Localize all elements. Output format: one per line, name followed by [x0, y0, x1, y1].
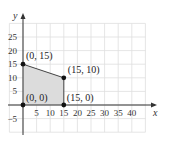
x-tick-label: 25 [87, 108, 97, 118]
feasible-region-chart: x y 510152025303540 252015105−5 (0, 15)(… [0, 0, 169, 146]
y-tick-labels: 252015105−5 [7, 32, 17, 124]
y-tick-label: 15 [8, 59, 18, 69]
x-tick-label: 35 [114, 108, 124, 118]
x-tick-labels: 510152025303540 [34, 108, 136, 118]
x-tick-label: 20 [73, 108, 83, 118]
y-tick-label: 10 [8, 73, 18, 83]
vertex-point [21, 62, 26, 67]
vertex-point [61, 103, 66, 108]
vertex-label: (15, 0) [67, 92, 94, 104]
y-tick-label: 20 [8, 46, 18, 56]
x-tick-label: 15 [59, 108, 69, 118]
y-tick-label: 25 [8, 32, 18, 42]
vertex-label: (0, 0) [26, 92, 48, 104]
x-tick-label: 30 [100, 108, 110, 118]
vertex-point [61, 75, 66, 80]
y-axis-arrow-icon [21, 13, 26, 19]
vertex-label: (15, 10) [68, 64, 100, 76]
vertex-label: (0, 15) [26, 50, 53, 62]
x-axis-label: x [152, 107, 158, 118]
y-tick-label: 5 [13, 86, 18, 96]
y-axis-label: y [12, 10, 18, 21]
x-tick-label: 40 [127, 108, 137, 118]
x-tick-label: 10 [46, 108, 56, 118]
x-tick-label: 5 [34, 108, 39, 118]
vertex-point [21, 103, 26, 108]
y-tick-label: −5 [7, 114, 17, 124]
